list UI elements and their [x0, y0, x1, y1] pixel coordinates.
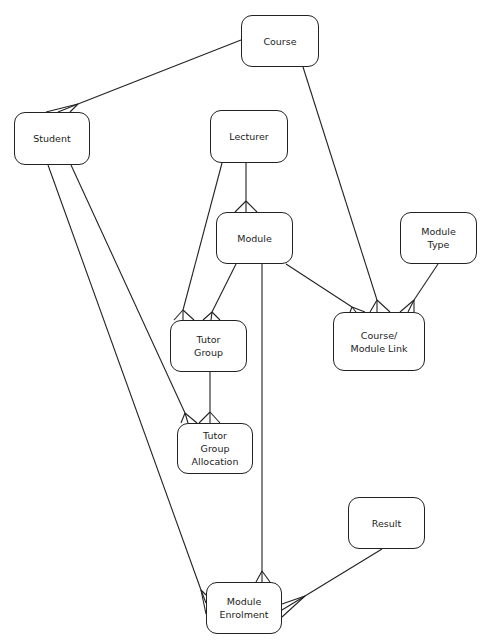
rel-tutorgroup-allocation: [199, 372, 220, 423]
entity-result: Result: [348, 497, 425, 549]
entity-student: Student: [14, 112, 90, 165]
er-diagram: Course Student Lecturer Module Module Ty…: [0, 0, 493, 642]
rel-module-link: [286, 264, 365, 312]
rel-lecturer-module: [235, 163, 257, 212]
rel-course-student: [46, 40, 241, 112]
rel-result-enrolment: [282, 549, 382, 617]
rel-module-tutorgroup: [203, 264, 236, 320]
rel-course-link: [303, 67, 390, 312]
entity-tutor-group: Tutor Group: [170, 320, 247, 372]
entity-course: Course: [241, 15, 319, 67]
entity-lecturer: Lecturer: [210, 110, 288, 163]
entity-tutor-group-allocation: Tutor Group Allocation: [177, 423, 253, 474]
rel-moduletype-link: [400, 264, 438, 312]
rel-student-enrolment: [48, 165, 206, 614]
rel-lecturer-tutorgroup: [174, 163, 222, 320]
entity-course-module-link: Course/ Module Link: [333, 312, 425, 371]
entity-module-enrolment: Module Enrolment: [206, 582, 282, 634]
rel-student-allocation: [71, 165, 197, 423]
entity-module-type: Module Type: [400, 212, 477, 264]
rel-module-enrolment: [256, 264, 270, 582]
entity-module: Module: [216, 212, 293, 264]
